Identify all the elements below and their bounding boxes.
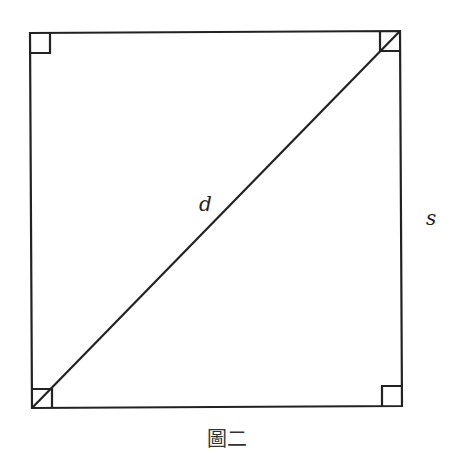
diagonal-label: d bbox=[199, 192, 212, 216]
figure-caption: 圖二 bbox=[207, 427, 247, 451]
square-diagram: d s 圖二 bbox=[0, 0, 459, 471]
right-angle-marker-bottom-right bbox=[382, 386, 402, 406]
right-angle-marker-top-left bbox=[30, 33, 50, 53]
side-label: s bbox=[426, 206, 436, 230]
diagonal-line bbox=[32, 31, 400, 408]
